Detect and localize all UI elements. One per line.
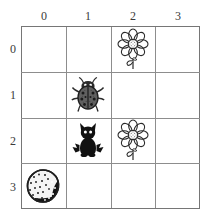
cat-icon (69, 121, 107, 159)
grid-cell-r3c0[interactable] (21, 163, 66, 209)
grid-line-horizontal-1 (21, 72, 200, 73)
column-header-1: 1 (73, 9, 103, 24)
grid-cell-r1c1[interactable] (66, 72, 111, 118)
flower-icon (116, 119, 150, 161)
column-header-2: 2 (118, 9, 148, 24)
row-header-3: 3 (5, 180, 21, 195)
column-header-0: 0 (29, 9, 59, 24)
grid-cell-r0c2[interactable] (111, 26, 156, 72)
column-header-3: 3 (163, 9, 193, 24)
grid-cell-r2c2[interactable] (111, 118, 156, 164)
row-header-1: 1 (5, 88, 21, 103)
worksheet-page: 0 1 2 3 0 1 2 3 (0, 0, 210, 223)
rock-icon (25, 168, 61, 204)
ladybug-icon (70, 76, 106, 114)
grid-cell-r2c1[interactable] (66, 118, 111, 164)
row-header-2: 2 (5, 134, 21, 149)
row-header-0: 0 (5, 42, 21, 57)
flower-icon (116, 28, 150, 70)
coordinate-grid (21, 26, 200, 209)
